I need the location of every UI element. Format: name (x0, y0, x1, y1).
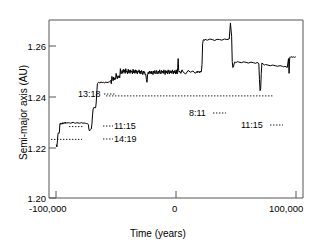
annotation-11-15-left: 11:15 (114, 121, 136, 131)
axes-frame (49, 20, 303, 198)
annotation-14-19: 14:19 (114, 134, 137, 144)
annotation-13-18: 13:18 (78, 89, 101, 99)
x-axis-ticks (56, 191, 296, 198)
x-axis-title: Time (years) (130, 228, 186, 239)
x-tick-label-100000: 100,000 (269, 203, 303, 214)
reference-lines (51, 96, 274, 139)
x-tick-label-minus-100000: -100,000 (29, 203, 67, 214)
chart-figure: 1.26 1.24 1.22 1.20 -100,000 0 100,000 S… (0, 0, 323, 245)
y-axis-ticks (49, 46, 56, 198)
x-tick-label-0: 0 (172, 203, 177, 214)
y-axis-title: Semi-major axis (AU) (18, 38, 29, 188)
annotation-11-15-right: 11:15 (241, 120, 263, 130)
annotation-8-11: 8:11 (189, 108, 206, 118)
